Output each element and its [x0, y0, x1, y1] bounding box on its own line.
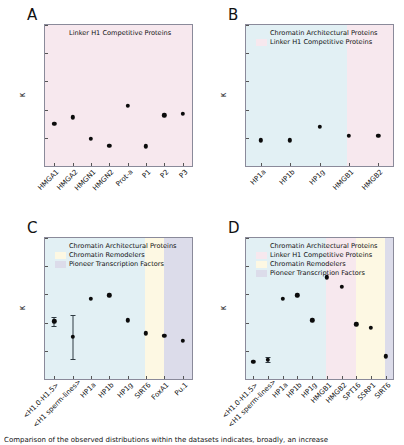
legend-label: Linker H1 Competitive Proteins — [270, 251, 372, 259]
x-axis-tick — [320, 163, 321, 166]
x-axis-tick — [73, 163, 74, 166]
legend-swatch — [256, 39, 267, 46]
x-axis-tick — [261, 163, 262, 166]
x-axis-tick — [54, 376, 55, 379]
x-axis-tick — [128, 163, 129, 166]
x-axis-tick — [283, 376, 284, 379]
x-axis-tick — [91, 163, 92, 166]
y-axis-tick — [45, 110, 48, 111]
y-axis-tick — [246, 294, 249, 295]
figure-root: A0.00.20.40.60.81.0κHMGA1HMGA2HMGN1HMGN2… — [0, 0, 404, 445]
x-axis-tick — [183, 376, 184, 379]
legend-b: Chromatin Architectural ProteinsLinker H… — [256, 29, 378, 46]
legend-a: Linker H1 Competitive Proteins — [55, 29, 171, 37]
panel-b-letter: B — [228, 6, 238, 24]
x-axis-tick — [146, 376, 147, 379]
legend-label: Linker H1 Competitive Proteins — [69, 29, 171, 37]
legend-swatch — [256, 30, 267, 37]
panel-a-letter: A — [27, 6, 37, 24]
legend-item: Linker H1 Competitive Proteins — [55, 29, 171, 37]
legend-label: Pioneer Transcription Factors — [69, 260, 164, 268]
legend-swatch — [55, 30, 66, 37]
y-axis-tick — [45, 238, 48, 239]
x-axis-tick — [386, 376, 387, 379]
y-axis-tick — [246, 323, 249, 324]
background-band — [246, 25, 347, 166]
y-axis-tick — [45, 379, 48, 380]
x-axis-tick — [183, 163, 184, 166]
legend-item: Chromatin Architectural Proteins — [256, 242, 378, 250]
x-axis-tick — [268, 376, 269, 379]
legend-item: Chromatin Remodelers — [55, 251, 177, 259]
background-band — [45, 25, 192, 166]
y-axis-tick — [45, 166, 48, 167]
y-axis-tick — [45, 351, 48, 352]
legend-item: Chromatin Architectural Proteins — [256, 29, 378, 37]
plot-area-a — [44, 24, 193, 167]
legend-swatch — [55, 261, 66, 268]
y-axis-label: κ — [219, 92, 228, 97]
legend-label: Chromatin Architectural Proteins — [69, 242, 177, 250]
y-axis-label: κ — [18, 92, 27, 97]
y-axis-tick — [45, 323, 48, 324]
x-axis-tick — [164, 163, 165, 166]
x-axis-tick — [356, 376, 357, 379]
figure-caption: Comparison of the observed distributions… — [4, 436, 402, 445]
legend-label: Linker H1 Competitive Proteins — [270, 38, 372, 46]
legend-swatch — [55, 243, 66, 250]
legend-item: Chromatin Remodelers — [256, 260, 378, 268]
y-axis-tick — [45, 138, 48, 139]
x-axis-tick — [342, 376, 343, 379]
y-axis-tick — [246, 379, 249, 380]
legend-label: Chromatin Remodelers — [270, 260, 346, 268]
y-axis-tick — [45, 25, 48, 26]
legend-swatch — [256, 270, 267, 277]
y-axis-tick — [45, 294, 48, 295]
x-axis-tick — [91, 376, 92, 379]
panel-c-letter: C — [27, 219, 37, 237]
legend-label: Pioneer Transcription Factors — [270, 269, 365, 277]
x-axis-tick — [109, 376, 110, 379]
x-axis-tick — [164, 376, 165, 379]
y-axis-tick — [45, 53, 48, 54]
panel-d-letter: D — [228, 219, 240, 237]
y-axis-tick — [246, 53, 249, 54]
y-axis-tick — [246, 238, 249, 239]
legend-swatch — [256, 261, 267, 268]
y-axis-tick — [246, 25, 249, 26]
y-axis-tick — [246, 351, 249, 352]
error-bar-cap — [266, 362, 271, 363]
error-bar-cap — [52, 326, 57, 327]
x-axis-tick — [297, 376, 298, 379]
x-axis-tick — [312, 376, 313, 379]
legend-swatch — [256, 243, 267, 250]
legend-item: Pioneer Transcription Factors — [55, 260, 177, 268]
legend-label: Chromatin Architectural Proteins — [270, 242, 378, 250]
x-axis-tick — [253, 376, 254, 379]
x-axis-tick — [109, 163, 110, 166]
y-axis-label: κ — [219, 305, 228, 310]
legend-swatch — [256, 252, 267, 259]
x-axis-tick — [128, 376, 129, 379]
y-axis-label: κ — [18, 305, 27, 310]
x-axis-tick — [290, 163, 291, 166]
x-axis-tick — [371, 376, 372, 379]
legend-c: Chromatin Architectural ProteinsChromati… — [55, 242, 177, 268]
error-bar-cap — [70, 315, 75, 316]
y-axis-tick — [246, 138, 249, 139]
y-axis-tick — [246, 266, 249, 267]
legend-item: Chromatin Architectural Proteins — [55, 242, 177, 250]
legend-label: Chromatin Remodelers — [69, 251, 145, 259]
x-axis-tick — [54, 163, 55, 166]
y-axis-tick — [246, 110, 249, 111]
x-axis-tick — [327, 376, 328, 379]
error-bar-cap — [52, 317, 57, 318]
legend-swatch — [55, 252, 66, 259]
y-axis-tick — [45, 81, 48, 82]
legend-d: Chromatin Architectural ProteinsLinker H… — [256, 242, 378, 277]
legend-item: Pioneer Transcription Factors — [256, 269, 378, 277]
background-band — [347, 25, 393, 166]
x-axis-tick — [378, 163, 379, 166]
x-axis-tick — [73, 376, 74, 379]
legend-label: Chromatin Architectural Proteins — [270, 29, 378, 37]
